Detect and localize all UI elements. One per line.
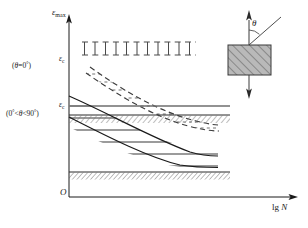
plot-canvas <box>0 0 308 228</box>
inset-theta-label: θ <box>252 18 256 28</box>
lower-endurance-band <box>69 172 230 180</box>
x-axis-label: lg N <box>272 203 287 212</box>
dashed-band-rungs <box>85 42 190 55</box>
epsilon-c-label-theta-range: εc <box>59 101 64 109</box>
origin-label: O <box>60 188 67 197</box>
epsilon-c-label-theta-zero: εc <box>59 55 64 63</box>
inset-theta-arc <box>249 30 259 34</box>
epsilon-c-hatch-fill <box>69 116 230 124</box>
solid-sn-curve-upper <box>69 96 218 156</box>
theta-zero-dashed-band <box>82 42 196 55</box>
fatigue-diagram-figure: εmax lg N O εc (θ=0°) εc (0°<θ<90°) θ <box>0 0 308 228</box>
y-axis-label: εmax <box>52 8 66 17</box>
epsilon-c-threshold-band <box>69 106 230 123</box>
lower-band-hatch-fill <box>69 173 230 180</box>
condition-label-theta-range: (0°<θ<90°) <box>6 110 39 118</box>
inset-specimen-body <box>228 45 271 75</box>
condition-label-theta-zero: (θ=0°) <box>12 62 31 70</box>
